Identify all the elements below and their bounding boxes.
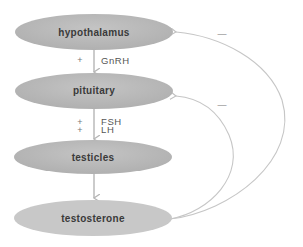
plus-sign: + bbox=[77, 125, 82, 135]
node-pituitary: pituitary bbox=[15, 73, 173, 109]
node-label: testosterone bbox=[61, 213, 125, 224]
feedback-loop-diagram: hypothalamus pituitary testicles testost… bbox=[0, 0, 303, 247]
node-label: testicles bbox=[72, 152, 115, 163]
edge-label-lh: LH bbox=[101, 124, 114, 135]
edge-label-gnrh: GnRH bbox=[101, 55, 130, 66]
plus-sign: + bbox=[77, 55, 82, 65]
node-hypothalamus: hypothalamus bbox=[15, 14, 173, 50]
minus-sign: — bbox=[218, 29, 227, 39]
node-label: pituitary bbox=[73, 85, 115, 96]
node-testosterone: testosterone bbox=[14, 200, 172, 236]
node-testicles: testicles bbox=[14, 140, 172, 174]
feedback-arrow-to-hypothalamus bbox=[170, 32, 285, 219]
feedback-arrow-to-pituitary bbox=[170, 96, 233, 219]
minus-sign: — bbox=[218, 100, 227, 110]
node-label: hypothalamus bbox=[58, 27, 130, 38]
